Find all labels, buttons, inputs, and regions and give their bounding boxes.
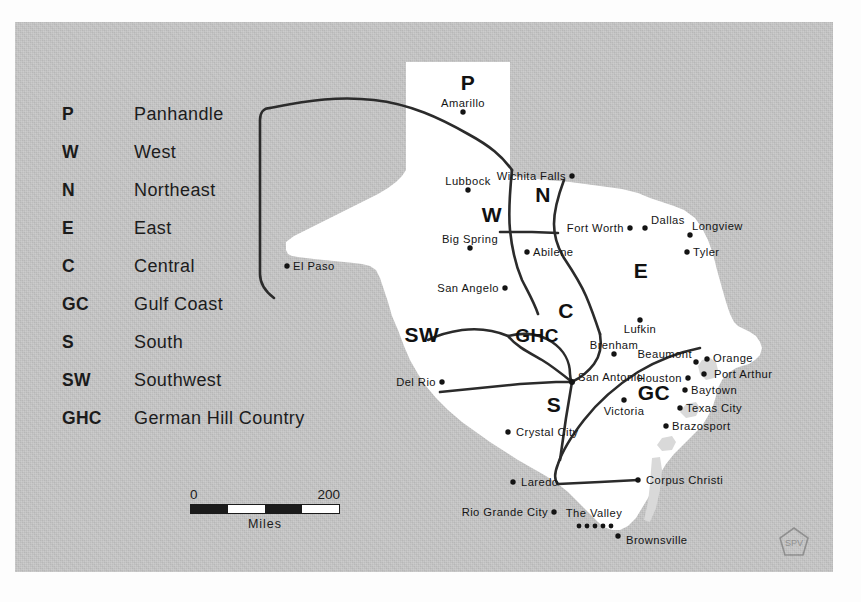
city-label-rio-grande-city: Rio Grande City [462,506,548,518]
city-dot-port-arthur [701,371,706,376]
legend-name: Central [134,256,195,277]
region-label-GC: GC [638,381,671,404]
city-dot-beaumont [693,359,698,364]
city-dot-longview [687,232,692,237]
legend-name: Gulf Coast [134,294,223,315]
city-dot-lubbock [465,187,470,192]
city-dot-brazosport [663,423,668,428]
legend-abbr: S [62,332,134,353]
city-label-abilene: Abilene [533,246,573,258]
city-label-port-arthur: Port Arthur [714,368,772,380]
city-dot-crystal-city [505,429,510,434]
city-label-san-antonio: San Antonio [578,371,643,383]
map-figure: P Panhandle W West N Northeast E East C … [0,0,861,602]
city-label-brenham: Brenham [590,339,639,351]
city-dot-dallas [642,225,647,230]
city-label-texas-city: Texas City [686,402,742,414]
city-dot-tyler [684,249,689,254]
legend-abbr: P [62,104,134,125]
city-dot-houston [685,375,690,380]
legend-name: South [134,332,183,353]
publisher-logo-text: SPV [785,538,803,548]
region-label-P: P [461,71,476,94]
city-dot-lufkin [637,317,642,322]
legend-name: East [134,218,172,239]
city-label-longview: Longview [692,220,743,232]
city-dot-amarillo [460,109,465,114]
city-label-dallas: Dallas [651,214,685,226]
scale-min-label: 0 [190,487,198,502]
city-label-crystal-city: Crystal City [516,426,579,438]
city-label-beaumont: Beaumont [637,348,692,360]
city-label-tyler: Tyler [693,246,720,258]
city-label-wichita-falls: Wichita Falls [497,170,566,182]
city-dot-wichita-falls [569,173,574,178]
city-dot-rio-grande-city [551,509,556,514]
publisher-logo: SPV [774,522,814,562]
region-label-C: C [558,299,574,322]
legend-abbr: E [62,218,134,239]
texas-landmass [286,62,762,530]
city-dot-baytown [682,387,687,392]
city-label-orange: Orange [713,352,753,364]
city-dot-big-spring [467,245,472,250]
legend-name: Northeast [134,180,216,201]
city-dot-brownsville [615,533,620,538]
region-label-GHC: GHC [515,325,559,346]
city-label-el-paso: El Paso [293,260,335,272]
legend-abbr: N [62,180,134,201]
city-label-lubbock: Lubbock [445,175,490,187]
city-dot-del-rio [439,379,444,384]
region-label-S: S [547,393,562,416]
city-label-the-valley: The Valley [566,507,623,519]
legend-abbr: W [62,142,134,163]
city-label-del-rio: Del Rio [396,376,436,388]
city-dot-fort-worth [627,225,632,230]
legend-abbr: C [62,256,134,277]
legend-abbr: GC [62,294,134,315]
city-label-baytown: Baytown [691,384,737,396]
city-dot-laredo [510,479,515,484]
city-label-san-angelo: San Angelo [437,282,499,294]
city-label-brazosport: Brazosport [672,420,731,432]
city-dot-orange [704,356,709,361]
region-label-E: E [634,259,649,282]
city-dot-brenham [611,351,616,356]
city-label-laredo: Laredo [521,476,559,488]
city-dot-texas-city [677,405,682,410]
city-label-corpus-christi: Corpus Christi [646,474,723,486]
legend-abbr: GHC [62,408,134,429]
legend-abbr: SW [62,370,134,391]
legend-name: Panhandle [134,104,224,125]
city-label-brownsville: Brownsville [626,534,688,546]
city-dot-corpus-christi [635,477,640,482]
boundary-northeast-south-edge [500,232,558,233]
city-label-houston: Houston [637,372,682,384]
city-label-fort-worth: Fort Worth [567,222,624,234]
city-label-lufkin: Lufkin [624,323,657,335]
city-dot-san-angelo [502,285,507,290]
region-label-W: W [482,203,502,226]
city-label-victoria: Victoria [604,405,645,417]
city-label-amarillo: Amarillo [441,97,485,109]
city-dot-abilene [524,249,529,254]
legend-name: Southwest [134,370,222,391]
city-dot-victoria [621,397,626,402]
city-dot-san-antonio [569,379,575,385]
legend-name: West [134,142,176,163]
texas-map: P W N E C GHC GC S SW Amarillo Lubbock W… [270,30,840,570]
city-dot-el-paso [284,263,289,268]
region-label-SW: SW [405,323,440,346]
city-label-big-spring: Big Spring [442,233,498,245]
region-label-N: N [535,183,551,206]
